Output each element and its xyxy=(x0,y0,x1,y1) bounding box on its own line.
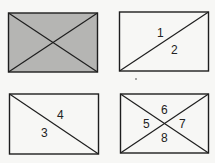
panel-bottom-left: 4 3 xyxy=(10,94,99,154)
panel-top-right: 1 2 xyxy=(120,12,209,80)
stray-mark xyxy=(135,78,137,80)
region-label-4: 4 xyxy=(57,108,64,122)
region-label-5: 5 xyxy=(143,117,150,131)
region-label-2: 2 xyxy=(171,43,178,57)
region-label-3: 3 xyxy=(41,126,48,140)
diagonal-line xyxy=(10,94,99,154)
region-label-6: 6 xyxy=(161,103,168,117)
diagonal-line xyxy=(120,12,209,71)
rectangle-subdivision-diagram: 1 2 4 3 6 5 7 8 xyxy=(0,0,215,163)
region-label-1: 1 xyxy=(157,26,164,40)
region-label-7: 7 xyxy=(179,117,186,131)
panel-bottom-right: 6 5 7 8 xyxy=(121,94,209,153)
region-label-8: 8 xyxy=(161,131,168,145)
panel-top-left xyxy=(9,13,98,72)
